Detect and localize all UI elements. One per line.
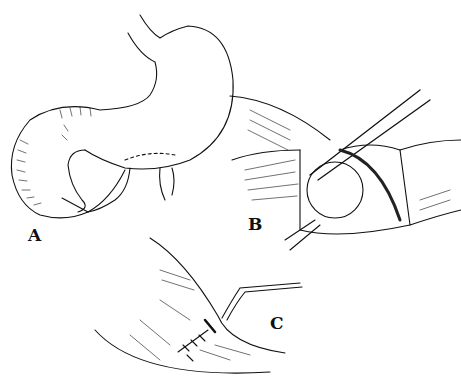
panel-label-b: B xyxy=(248,216,262,233)
panel-label-a: A xyxy=(28,227,41,244)
panel-a-drawing xyxy=(11,15,233,218)
illustration-canvas xyxy=(0,0,461,390)
panel-c-drawing xyxy=(95,238,302,373)
panel-b-drawing xyxy=(230,90,461,250)
panel-label-c: C xyxy=(270,315,284,332)
